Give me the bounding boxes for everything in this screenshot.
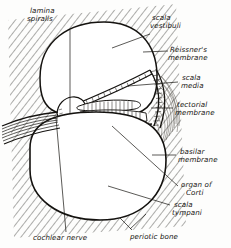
- label-reissners-membrane: Reissner's membrane: [168, 45, 209, 62]
- label-lamina-spiralis: lamina spiralis: [27, 6, 57, 23]
- label-basilar-membrane: basilar membrane: [178, 147, 218, 164]
- label-cochlear-nerve: cochlear nerve: [33, 233, 88, 242]
- scala-tympani: [30, 112, 166, 220]
- label-organ-of-corti: organ of Corti: [181, 180, 214, 197]
- diagram-canvas: lamina spiralis scala vestibuli Reissner…: [0, 0, 231, 248]
- label-scala-media: scala media: [181, 73, 204, 90]
- label-tectorial-membrane: tectorial membrane: [175, 100, 215, 117]
- cochlea-diagram: lamina spiralis scala vestibuli Reissner…: [0, 0, 231, 248]
- label-periotic-bone: periotic bone: [129, 232, 179, 241]
- label-scala-tympani: scala tympani: [172, 200, 202, 217]
